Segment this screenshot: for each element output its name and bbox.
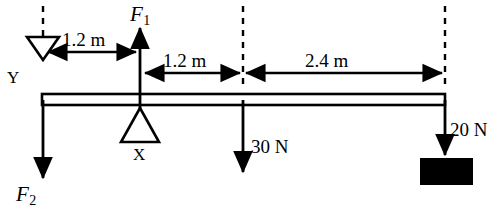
force-label-F2: F2 xyxy=(16,184,36,208)
force-label-F2-symbol: F xyxy=(16,182,29,206)
support-triangle-Y xyxy=(27,37,59,60)
fulcrum-label-X: X xyxy=(133,146,145,163)
support-label-Y: Y xyxy=(7,69,19,86)
hanging-block xyxy=(420,158,473,185)
force-label-30N: 30 N xyxy=(251,137,288,156)
force-label-F2-subscript: 2 xyxy=(29,193,37,208)
fulcrum-triangle-X xyxy=(121,108,159,142)
dimension-label-right: 2.4 m xyxy=(305,51,348,70)
force-label-F1-subscript: 1 xyxy=(143,13,151,28)
dimension-label-left: 1.2 m xyxy=(62,30,105,49)
physics-lever-diagram: 1.2 m 1.2 m 2.4 m F1 F2 30 N 20 N Y X xyxy=(0,0,491,214)
dimension-label-middle: 1.2 m xyxy=(163,51,206,70)
force-label-20N: 20 N xyxy=(450,120,487,139)
force-label-F1-symbol: F xyxy=(130,2,143,26)
force-label-F1: F1 xyxy=(130,4,150,28)
